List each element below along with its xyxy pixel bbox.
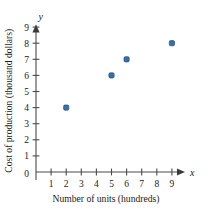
x-axis-title: Number of units (hundreds)	[53, 193, 160, 205]
axes-group	[32, 24, 185, 180]
data-point	[109, 73, 114, 78]
origin-label: 0	[24, 169, 29, 179]
y-tick-label: 2	[24, 135, 29, 145]
x-tick-label: 1	[49, 179, 54, 189]
y-tick-label: 4	[24, 103, 29, 113]
x-tick-label: 6	[124, 179, 129, 189]
x-tick-label: 4	[94, 179, 99, 189]
y-tick-label: 7	[24, 55, 29, 65]
y-tick-label: 6	[24, 71, 29, 81]
x-tick-label: 8	[154, 179, 159, 189]
x-axis-arrow-icon	[177, 168, 185, 175]
x-tick-label: 3	[79, 179, 84, 189]
x-tick-label: 5	[109, 179, 114, 189]
y-tick-label: 3	[24, 119, 29, 129]
plot-canvas: 1234567891234567890 xyNumber of units (h…	[0, 0, 214, 213]
x-tick-label: 2	[64, 179, 69, 189]
data-point	[169, 41, 174, 46]
scatter-plot-figure: 1234567891234567890 xyNumber of units (h…	[0, 0, 214, 213]
y-axis-variable-label: y	[38, 11, 44, 22]
x-tick-label: 7	[139, 179, 144, 189]
y-tick-label: 5	[24, 87, 29, 97]
y-tick-label: 8	[24, 39, 29, 49]
x-axis-variable-label: x	[189, 167, 195, 178]
y-axis-arrow-icon	[32, 24, 39, 32]
data-point	[64, 105, 69, 110]
x-tick-label: 9	[170, 179, 175, 189]
tick-labels-group: 1234567891234567890	[24, 23, 174, 189]
data-point	[124, 57, 129, 62]
ticks-group	[33, 27, 172, 175]
y-tick-label: 1	[24, 151, 29, 161]
y-tick-label: 9	[24, 23, 29, 33]
axis-labels-group: xyNumber of units (hundreds)Cost of prod…	[3, 11, 195, 205]
y-axis-title: Cost of production (thousand dollars)	[3, 29, 15, 173]
data-points-group	[64, 41, 175, 111]
